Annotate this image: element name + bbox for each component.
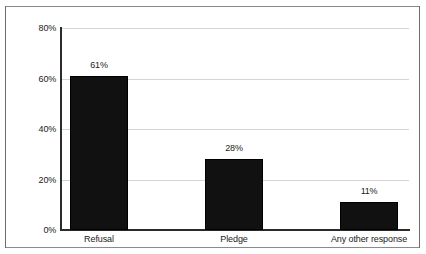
- bar-value-pledge: 28%: [225, 143, 242, 153]
- x-category-label-any-other-response: Any other response: [331, 234, 407, 244]
- figure-border-top: [5, 6, 420, 7]
- y-tick-label-40: 40%: [39, 124, 56, 134]
- bar-value-any-other-response: 11%: [361, 186, 378, 196]
- y-tick-label-80: 80%: [39, 23, 56, 33]
- gridline-0: 0%: [62, 230, 409, 231]
- x-category-label-refusal: Refusal: [84, 234, 114, 244]
- bar-any-other-response[interactable]: [340, 202, 398, 230]
- bar-refusal[interactable]: [70, 76, 128, 230]
- y-tick-label-60: 60%: [39, 74, 56, 84]
- plot-area: 80% 60% 40% 20% 0% 61% 28% 11%: [62, 28, 409, 230]
- y-tick-label-20: 20%: [39, 175, 56, 185]
- figure-border-left: [5, 6, 6, 248]
- bar-chart-figure: 80% 60% 40% 20% 0% 61% 28% 11% Refusal P…: [0, 0, 426, 254]
- bar-value-refusal: 61%: [90, 60, 107, 70]
- bar-pledge[interactable]: [205, 159, 263, 230]
- x-category-label-pledge: Pledge: [220, 234, 247, 244]
- figure-border-right: [419, 6, 420, 248]
- y-tick-label-0: 0%: [43, 225, 56, 235]
- figure-border-bottom: [5, 247, 420, 248]
- gridline-80: 80%: [62, 28, 409, 29]
